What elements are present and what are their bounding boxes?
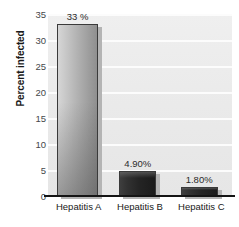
value-label-hepatitis-c: 1.80%	[169, 174, 230, 185]
bars-layer: 33 %4.90%1.80%	[48, 14, 232, 196]
y-axis-tick-5: 5	[24, 165, 46, 176]
y-axis-tick-labels: 35302520151050	[24, 10, 46, 202]
y-axis-tick-20: 20	[24, 87, 46, 98]
y-axis-tick-30: 30	[24, 35, 46, 46]
y-axis-tick-15: 15	[24, 113, 46, 124]
x-axis-category-labels: Hepatitis AHepatitis BHepatitis C	[48, 201, 234, 219]
y-axis-tick-10: 10	[24, 139, 46, 150]
y-axis-tick-0: 0	[24, 191, 46, 202]
bar-hepatitis-a[interactable]	[57, 24, 98, 196]
value-label-hepatitis-b: 4.90%	[107, 158, 168, 169]
x-axis-line	[44, 195, 235, 197]
y-axis-tick-25: 25	[24, 61, 46, 72]
value-label-hepatitis-a: 33 %	[45, 11, 110, 22]
bar-hepatitis-b[interactable]	[119, 171, 156, 196]
y-axis-tick-35: 35	[24, 9, 46, 20]
bar-group	[57, 14, 98, 196]
bar-chart: Percent infected 35302520151050 33 %4.90…	[0, 0, 239, 227]
bar-group	[181, 14, 218, 196]
category-label-hepatitis-c: Hepatitis C	[163, 201, 239, 212]
bar-group	[119, 14, 156, 196]
